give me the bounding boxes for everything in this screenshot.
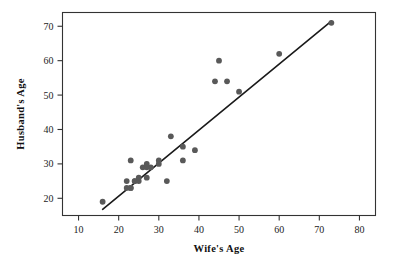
- y-axis-title: Husband's Age: [15, 78, 26, 149]
- scatter-plot-figure: 1020304050607080 203040506070 Wife's Age…: [0, 0, 399, 265]
- x-tick-label: 70: [314, 224, 324, 235]
- y-tick-label: 60: [44, 55, 54, 66]
- x-axis-title: Wife's Age: [194, 243, 245, 254]
- y-tick-label: 50: [44, 90, 54, 101]
- x-tick-label: 40: [194, 224, 204, 235]
- x-tick-label: 10: [74, 224, 84, 235]
- data-point: [168, 133, 174, 139]
- chart-canvas: 1020304050607080 203040506070 Wife's Age…: [0, 0, 399, 265]
- x-tick-label: 60: [274, 224, 284, 235]
- data-point: [216, 58, 222, 64]
- data-point: [276, 51, 282, 57]
- y-tick-label: 30: [44, 158, 54, 169]
- data-point: [180, 158, 186, 164]
- data-point: [164, 178, 170, 184]
- data-point: [100, 199, 106, 205]
- data-point: [212, 78, 218, 84]
- data-point: [328, 20, 334, 26]
- x-tick-label: 20: [114, 224, 124, 235]
- y-tick-label: 40: [44, 124, 54, 135]
- y-tick-label: 20: [44, 193, 54, 204]
- data-point: [144, 175, 150, 181]
- data-point: [224, 78, 230, 84]
- data-point: [180, 144, 186, 150]
- data-point: [136, 175, 142, 181]
- data-point: [236, 89, 242, 95]
- data-point: [148, 164, 154, 170]
- x-tick-label: 50: [234, 224, 244, 235]
- data-point: [128, 158, 134, 164]
- y-tick-label: 70: [44, 21, 54, 32]
- data-point: [128, 185, 134, 191]
- data-point: [156, 161, 162, 167]
- x-tick-label: 80: [354, 224, 364, 235]
- data-point: [192, 147, 198, 153]
- x-tick-label: 30: [154, 224, 164, 235]
- data-point: [124, 178, 130, 184]
